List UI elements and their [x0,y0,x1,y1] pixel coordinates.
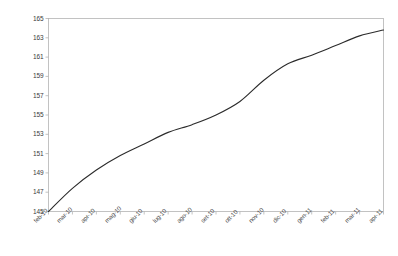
y-axis-tick-marks [46,19,49,212]
data-series-line [49,30,384,211]
y-axis-tick-label: 157 [20,92,44,99]
line-chart: 145147149151153155157159161163165 feb-10… [0,0,398,256]
y-axis-tick-label: 149 [20,169,44,176]
y-axis-tick-label: 153 [20,130,44,137]
y-axis-tick-label: 159 [20,72,44,79]
y-axis-tick-label: 147 [20,188,44,195]
y-axis-tick-label: 165 [20,15,44,22]
y-axis-tick-label: 161 [20,53,44,60]
y-axis-tick-label: 155 [20,111,44,118]
y-axis-tick-label: 151 [20,150,44,157]
y-axis-tick-label: 163 [20,34,44,41]
